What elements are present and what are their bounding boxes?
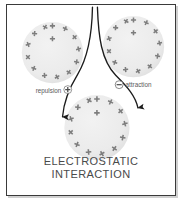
particle-body-icon [64, 95, 129, 160]
electrostatic-interaction-figure: repulsion attraction ELECTROSTATIC INTER… [0, 0, 184, 210]
particle-top-left [22, 22, 83, 83]
particle-top-right [103, 16, 164, 77]
figure-caption: ELECTROSTATIC INTERACTION [7, 155, 175, 181]
particle-body-icon [22, 22, 83, 83]
particle-body-icon [103, 16, 164, 77]
attraction-label: attraction [126, 81, 152, 88]
figure-frame: repulsion attraction ELECTROSTATIC INTER… [6, 4, 176, 196]
caption-line-2: INTERACTION [7, 168, 175, 181]
repulsion-charge-marker-icon [64, 86, 72, 94]
caption-line-1: ELECTROSTATIC [7, 155, 175, 168]
repulsion-label: repulsion [36, 87, 62, 95]
attraction-charge-marker-icon [115, 81, 123, 89]
particle-bottom-center [64, 95, 129, 160]
